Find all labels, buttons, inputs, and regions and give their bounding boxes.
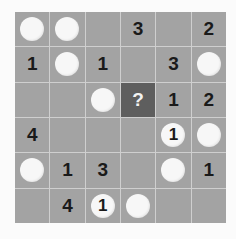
- cell-number: 3: [168, 53, 179, 75]
- puzzle-grid: 32113?124113141: [15, 12, 226, 223]
- circle-icon: 1: [91, 194, 115, 218]
- grid-cell[interactable]: 4: [15, 118, 49, 152]
- cell-number: 1: [62, 159, 73, 181]
- grid-cell[interactable]: [50, 83, 84, 117]
- cell-number: 4: [27, 124, 38, 146]
- grid-cell[interactable]: [121, 189, 155, 223]
- grid-cell[interactable]: [15, 189, 49, 223]
- cell-number: 1: [168, 89, 179, 111]
- question-cell[interactable]: ?: [121, 83, 155, 117]
- circle-icon: [197, 52, 221, 76]
- grid-cell[interactable]: [50, 12, 84, 46]
- grid-cell[interactable]: [156, 153, 190, 187]
- grid-cell[interactable]: [192, 47, 226, 81]
- grid-cell[interactable]: [50, 47, 84, 81]
- grid-cell[interactable]: [121, 153, 155, 187]
- grid-cell[interactable]: 3: [86, 153, 120, 187]
- grid-cell[interactable]: 1: [50, 153, 84, 187]
- grid-cell[interactable]: 4: [50, 189, 84, 223]
- circle-icon: [55, 52, 79, 76]
- grid-cell[interactable]: [192, 189, 226, 223]
- grid-cell[interactable]: [15, 153, 49, 187]
- grid-cell[interactable]: 3: [156, 47, 190, 81]
- grid-cell[interactable]: 1: [192, 153, 226, 187]
- question-mark: ?: [132, 89, 144, 111]
- cell-number: 3: [133, 18, 144, 40]
- grid-cell[interactable]: 2: [192, 12, 226, 46]
- cell-number: 1: [27, 53, 38, 75]
- grid-cell[interactable]: [86, 83, 120, 117]
- grid-cell[interactable]: [86, 118, 120, 152]
- grid-cell[interactable]: 3: [121, 12, 155, 46]
- grid-cell[interactable]: [192, 118, 226, 152]
- grid-cell[interactable]: [156, 12, 190, 46]
- grid-cell[interactable]: [156, 189, 190, 223]
- grid-cell[interactable]: [121, 118, 155, 152]
- grid-cell[interactable]: 1: [86, 47, 120, 81]
- cell-number: 2: [204, 18, 215, 40]
- cell-number: 4: [62, 195, 73, 217]
- grid-cell[interactable]: 1: [156, 83, 190, 117]
- circle-icon: 1: [161, 123, 185, 147]
- grid-cell[interactable]: 2: [192, 83, 226, 117]
- grid-cell[interactable]: 1: [156, 118, 190, 152]
- grid-cell[interactable]: [121, 47, 155, 81]
- circle-icon: [55, 17, 79, 41]
- circle-icon: [126, 194, 150, 218]
- grid-cell[interactable]: [86, 12, 120, 46]
- circle-icon: [91, 88, 115, 112]
- circle-icon: [20, 17, 44, 41]
- circle-icon: [197, 123, 221, 147]
- grid-cell[interactable]: [15, 83, 49, 117]
- grid-cell[interactable]: 1: [15, 47, 49, 81]
- cell-number: 1: [98, 53, 109, 75]
- circle-icon: [161, 158, 185, 182]
- grid-cell[interactable]: 1: [86, 189, 120, 223]
- cell-number: 1: [204, 159, 215, 181]
- grid-cell[interactable]: [50, 118, 84, 152]
- grid-cell[interactable]: [15, 12, 49, 46]
- circle-icon: [20, 158, 44, 182]
- cell-number: 2: [204, 89, 215, 111]
- cell-number: 3: [98, 159, 109, 181]
